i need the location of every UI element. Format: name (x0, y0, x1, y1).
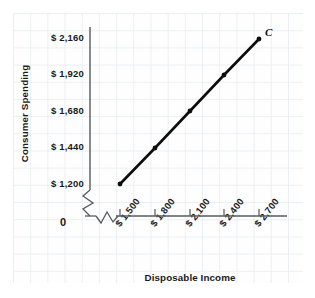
chart-container: $ 2,160 $ 1,920 $ 1,680 $ 1,440 $ 1,200 … (0, 0, 315, 298)
y-axis-break-zigzag (83, 190, 93, 216)
data-point-2400-1920 (222, 73, 227, 78)
data-point-2100-1680 (188, 109, 193, 114)
plot-area-svg (0, 0, 315, 298)
data-point-1800-1440 (153, 146, 158, 151)
data-point-1500-1200 (118, 182, 123, 187)
data-point-2700-2160 (257, 37, 262, 42)
x-axis-break-zigzag (96, 212, 118, 223)
